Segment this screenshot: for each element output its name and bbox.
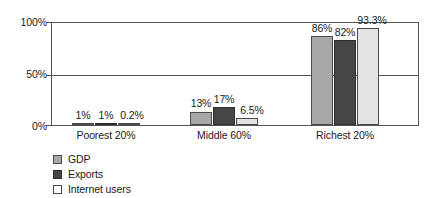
bar-value-label-exports-poorest-20: 1%: [99, 110, 114, 121]
bar-value-label-exports-middle-60: 17%: [214, 94, 235, 105]
x-axis-labels: Poorest 20% Middle 60% Richest 20%: [51, 129, 419, 145]
bar-value-label-gdp-middle-60: 13%: [191, 98, 212, 109]
exports-swatch-icon: [53, 170, 62, 179]
legend-label-exports: Exports: [68, 168, 103, 180]
bar-gdp-middle-60[interactable]: [190, 112, 212, 126]
bar-chart-figure: 100% 50% 0% 1% 1% 0.2% 13% 17% 6.5%: [0, 0, 433, 198]
y-axis-tick-label-50: 50%: [3, 69, 47, 80]
bar-value-label-gdp-richest-20: 86%: [312, 23, 333, 34]
legend-item-exports[interactable]: Exports: [53, 167, 131, 181]
bar-value-label-internet-users-richest-20: 93.3%: [357, 15, 386, 26]
y-axis-labels: 100% 50% 0%: [0, 0, 47, 198]
bar-group-richest-20: 86% 82% 93.3%: [311, 23, 381, 125]
bar-internet-users-richest-20[interactable]: [357, 28, 379, 125]
x-axis-tick-label-middle-60: Middle 60%: [197, 129, 251, 142]
legend-label-gdp: GDP: [68, 153, 90, 165]
bar-value-label-internet-users-middle-60: 6.5%: [240, 105, 264, 116]
bar-value-label-exports-richest-20: 82%: [335, 27, 356, 38]
legend-item-internet-users[interactable]: Internet users: [53, 182, 131, 196]
y-tick-mark-50: [46, 75, 52, 76]
bar-internet-users-middle-60[interactable]: [236, 118, 258, 125]
plot-area: 1% 1% 0.2% 13% 17% 6.5% 86% 82% 93.3%: [51, 22, 419, 126]
gdp-swatch-icon: [53, 155, 62, 164]
bar-exports-middle-60[interactable]: [213, 107, 235, 125]
bar-value-label-internet-users-poorest-20: 0.2%: [120, 110, 144, 121]
y-axis-tick-label-0: 0%: [3, 121, 47, 132]
bar-group-poorest-20: 1% 1% 0.2%: [72, 23, 142, 125]
legend-item-gdp[interactable]: GDP: [53, 152, 131, 166]
y-axis-tick-label-100: 100%: [3, 17, 47, 28]
bar-value-label-gdp-poorest-20: 1%: [76, 110, 91, 121]
internet-users-swatch-icon: [53, 185, 62, 194]
bar-exports-poorest-20[interactable]: [95, 123, 117, 125]
bar-gdp-poorest-20[interactable]: [72, 123, 94, 125]
y-tick-mark-100: [46, 22, 52, 23]
chart-legend: GDP Exports Internet users: [53, 152, 131, 197]
x-axis-tick-label-richest-20: Richest 20%: [316, 129, 374, 142]
bar-internet-users-poorest-20[interactable]: [118, 123, 140, 125]
y-tick-mark-0: [46, 125, 52, 126]
bar-exports-richest-20[interactable]: [334, 40, 356, 125]
x-axis-tick-label-poorest-20: Poorest 20%: [76, 129, 135, 142]
legend-label-internet-users: Internet users: [68, 183, 131, 195]
bar-gdp-richest-20[interactable]: [311, 36, 333, 125]
bar-group-middle-60: 13% 17% 6.5%: [190, 23, 260, 125]
